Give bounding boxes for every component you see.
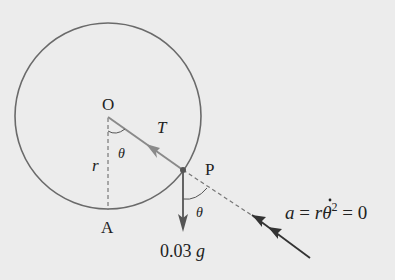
diagram-canvas: O T θ r P A θ 0.03 g a = rθ2 = 0 [0, 0, 395, 280]
label-theta-bottom: θ [196, 205, 203, 220]
label-T: T [157, 118, 168, 137]
accel-eq2: = 0 [337, 202, 367, 223]
acceleration-arrowhead-1-icon [252, 215, 266, 227]
label-O: O [102, 95, 114, 114]
accel-theta: θ [322, 202, 331, 223]
weight-symbol: g [196, 241, 205, 261]
label-A: A [101, 218, 114, 237]
label-P: P [205, 160, 214, 179]
label-weight: 0.03 g [160, 241, 205, 261]
theta-dot [329, 199, 332, 202]
angle-arc-top [108, 129, 125, 133]
weight-number: 0.03 [160, 241, 196, 261]
accel-eq1: = [295, 202, 315, 223]
acceleration-arrowhead-2-icon [268, 227, 282, 239]
label-theta-top: θ [118, 146, 125, 161]
tension-arrowhead-icon [146, 144, 160, 158]
particle-point [180, 167, 186, 173]
label-r: r [92, 156, 99, 175]
accel-a: a [285, 202, 295, 223]
angle-arc-bottom [183, 188, 207, 199]
string-line [108, 117, 183, 170]
label-acceleration: a = rθ2 = 0 [285, 200, 367, 223]
extension-dashed-line [183, 170, 262, 222]
